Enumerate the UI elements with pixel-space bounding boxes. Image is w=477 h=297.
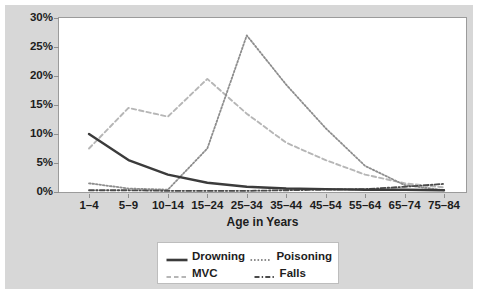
y-axis-tick-mark xyxy=(54,76,59,77)
line-solid-swatch xyxy=(166,251,188,261)
x-axis-tick-mark xyxy=(89,194,90,198)
x-axis-tick-mark xyxy=(128,194,129,198)
y-axis-tick-label: 25% xyxy=(9,41,53,52)
x-axis-tick-mark xyxy=(405,194,406,198)
x-axis-tick-label: 35–44 xyxy=(270,199,302,211)
legend-row: MVC Falls xyxy=(166,264,332,281)
x-axis-tick-label: 75–84 xyxy=(428,199,460,211)
y-axis: 0%5%10%15%20%25%30% xyxy=(5,5,53,205)
series-line-poisoning xyxy=(89,35,444,190)
x-axis-tick-label: 5–9 xyxy=(119,199,138,211)
x-axis-tick-label: 45–54 xyxy=(310,199,342,211)
y-axis-tick-mark xyxy=(54,163,59,164)
legend-item-drowning[interactable]: Drowning xyxy=(166,247,250,264)
legend-label: Drowning xyxy=(192,250,245,262)
x-axis-tick-mark xyxy=(168,194,169,198)
x-axis-tick-label: 25–34 xyxy=(231,199,263,211)
x-axis-tick-mark xyxy=(326,194,327,198)
y-axis-tick-label: 15% xyxy=(9,99,53,110)
chart-figure: 0%5%10%15%20%25%30% 1–45–910–1415–2425–3… xyxy=(0,0,477,297)
y-axis-tick-mark xyxy=(54,18,59,19)
y-axis-tick-label: 10% xyxy=(9,128,53,139)
x-axis-tick-mark xyxy=(286,194,287,198)
y-axis-tick-label: 30% xyxy=(9,12,53,23)
x-axis-tick-label: 55–64 xyxy=(349,199,381,211)
x-axis-tick-label: 1–4 xyxy=(79,199,98,211)
x-axis-tick-mark xyxy=(247,194,248,198)
legend-label: Poisoning xyxy=(276,250,332,262)
y-axis-tick-mark xyxy=(54,47,59,48)
series-line-mvc xyxy=(89,79,444,187)
y-axis-tick-mark xyxy=(54,134,59,135)
y-axis-tick-mark xyxy=(54,105,59,106)
line-dash-dot-swatch xyxy=(254,268,276,278)
legend-item-mvc[interactable]: MVC xyxy=(166,264,254,281)
series-line-drowning xyxy=(89,134,444,190)
legend-label: Falls xyxy=(280,267,306,279)
x-axis-tick-mark xyxy=(207,194,208,198)
legend-item-poisoning[interactable]: Poisoning xyxy=(250,247,332,264)
x-axis: 1–45–910–1415–2425–3435–4445–5455–6465–7… xyxy=(58,194,467,216)
legend-label: MVC xyxy=(192,267,218,279)
legend-item-falls[interactable]: Falls xyxy=(254,264,332,281)
x-axis-tick-label: 65–74 xyxy=(389,199,421,211)
x-axis-tick-mark xyxy=(444,194,445,198)
x-axis-title: Age in Years xyxy=(58,215,467,229)
y-axis-tick-mark xyxy=(54,192,59,193)
plot-area xyxy=(58,17,467,193)
x-axis-tick-label: 10–14 xyxy=(152,199,184,211)
x-axis-tick-mark xyxy=(365,194,366,198)
legend-row: Drowning Poisoning xyxy=(166,247,332,264)
line-dotted-swatch xyxy=(250,251,272,261)
series-canvas xyxy=(59,18,466,192)
x-axis-tick-label: 15–24 xyxy=(191,199,223,211)
y-axis-tick-label: 20% xyxy=(9,70,53,81)
y-axis-tick-label: 0% xyxy=(9,186,53,197)
line-dashed-swatch xyxy=(166,268,188,278)
y-axis-tick-label: 5% xyxy=(9,157,53,168)
chart-legend: Drowning Poisoning MVC Falls xyxy=(157,242,339,284)
